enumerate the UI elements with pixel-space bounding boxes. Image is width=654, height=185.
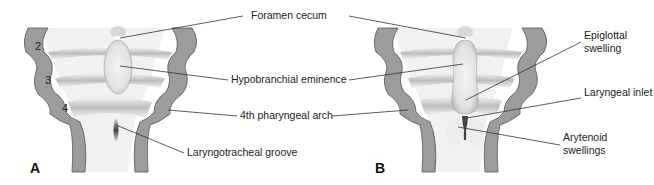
arch-number-2: 2: [35, 40, 41, 52]
arch-number-3: 3: [45, 74, 51, 86]
arytenoid-swelling-left-b: [446, 118, 464, 146]
panel-b: [332, 16, 581, 172]
label-fourth-pharyngeal-arch: 4th pharyngeal arch: [240, 109, 333, 122]
leader-fourth-arch-b: [332, 110, 408, 116]
label-epiglottal-swelling: Epiglottal swelling: [584, 29, 654, 55]
arytenoid-swelling-right-b: [466, 118, 484, 146]
label-foramen-cecum: Foramen cecum: [251, 9, 327, 22]
arch-number-4: 4: [62, 102, 68, 114]
panel-letter-b: B: [375, 160, 385, 176]
label-laryngeal-inlet: Laryngeal inlet: [584, 86, 654, 99]
label-hypobranchial-eminence: Hypobranchial eminence: [231, 73, 347, 86]
panel-letter-a: A: [30, 160, 40, 176]
label-arytenoid-swellings: Arytenoid swellings: [563, 131, 633, 157]
epiglottal-swelling-b: [452, 40, 479, 114]
label-laryngotracheal-groove: Laryngotracheal groove: [187, 146, 297, 159]
laryngotracheal-groove-a: [114, 119, 119, 141]
leader-fourth-arch-a: [168, 110, 237, 116]
